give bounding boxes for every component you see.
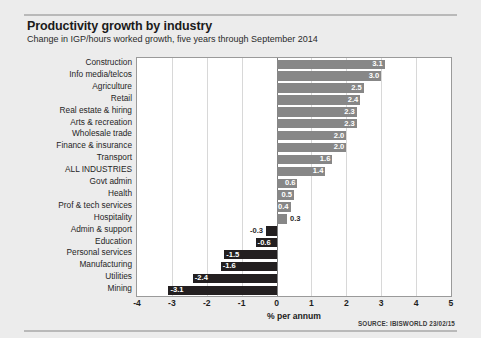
x-axis-ticks: -4-3-2-1012345 [136, 298, 452, 312]
bar-value-label: 2.3 [277, 119, 355, 129]
category-label: Govt admin [90, 176, 132, 188]
bar-series: 3.13.02.52.42.32.32.02.01.61.40.60.50.40… [137, 58, 451, 296]
bar [266, 226, 276, 235]
category-label: ALL INDUSTRIES [65, 164, 132, 176]
bar-row: -1.5 [137, 248, 451, 260]
bar-row: 2.3 [137, 118, 451, 130]
bar [277, 214, 287, 223]
category-label: Agriculture [92, 81, 132, 93]
bar-row: -3.1 [137, 284, 451, 296]
category-label: Utilities [105, 271, 132, 283]
category-label: Admin & support [71, 224, 132, 236]
x-tick-label: 5 [449, 298, 454, 308]
bar-row: 0.3 [137, 213, 451, 225]
bar-row: 1.4 [137, 165, 451, 177]
bar-value-label: 0.6 [277, 178, 296, 188]
bar-row: 2.0 [137, 129, 451, 141]
category-label: Arts & recreation [70, 117, 132, 129]
category-label: Retail [111, 93, 132, 105]
category-label: Finance & insurance [56, 140, 132, 152]
x-tick-label: -4 [133, 298, 141, 308]
bar-value-label: 2.3 [277, 107, 355, 117]
bar-value-label: -3.1 [170, 285, 183, 295]
x-tick-label: 4 [414, 298, 419, 308]
bar-value-label: -0.3 [137, 226, 263, 236]
bar-value-label: 2.0 [277, 142, 345, 152]
category-label: Mining [108, 283, 132, 295]
bar-row: 2.4 [137, 94, 451, 106]
bar-row: 3.0 [137, 70, 451, 82]
category-label: Transport [97, 152, 132, 164]
plot-area: 3.13.02.52.42.32.32.02.01.61.40.60.50.40… [136, 57, 452, 297]
category-label: Manufacturing [79, 259, 132, 271]
bar-value-label: 0.3 [290, 214, 301, 224]
x-tick-label: -3 [168, 298, 176, 308]
category-label: Hospitality [94, 212, 132, 224]
chart-subtitle: Change in IGP/hours worked growth, five … [27, 34, 318, 44]
bar-value-label: -2.4 [195, 273, 208, 283]
bar-value-label: 0.5 [277, 190, 292, 200]
bar-row: 2.3 [137, 106, 451, 118]
bar-row: 0.4 [137, 201, 451, 213]
x-tick-label: 2 [344, 298, 349, 308]
category-label: Health [108, 188, 132, 200]
bar-row: 1.6 [137, 153, 451, 165]
bar-row: -1.6 [137, 260, 451, 272]
bar-row: 0.6 [137, 177, 451, 189]
bar-row: 2.0 [137, 141, 451, 153]
bar-value-label: 0.4 [277, 202, 289, 212]
bar-value-label: 1.4 [277, 166, 324, 176]
bar-value-label: -1.5 [226, 250, 239, 260]
bar-value-label: 2.5 [277, 83, 362, 93]
bar [168, 286, 276, 295]
category-label: Info media/telcos [69, 69, 132, 81]
bar-value-label: 1.6 [277, 154, 331, 164]
bottom-divider [24, 330, 457, 332]
bar-row: 2.5 [137, 82, 451, 94]
bar-row: -0.3 [137, 225, 451, 237]
x-tick-label: 3 [379, 298, 384, 308]
bar-value-label: -0.6 [258, 238, 271, 248]
x-tick-label: -1 [238, 298, 246, 308]
category-label: Education [95, 236, 132, 248]
category-label: Prof & tech services [58, 200, 132, 212]
bar-row: 0.5 [137, 189, 451, 201]
bar-value-label: 2.0 [277, 131, 345, 141]
top-divider [24, 14, 457, 16]
category-axis: ConstructionInfo media/telcosAgriculture… [0, 57, 132, 297]
x-tick-label: 1 [309, 298, 314, 308]
bar-row: -2.4 [137, 272, 451, 284]
category-label: Construction [85, 57, 132, 69]
bar-row: -0.6 [137, 237, 451, 249]
category-label: Personal services [67, 247, 132, 259]
chart-card: Productivity growth by industry Change i… [0, 0, 481, 338]
x-tick-label: 0 [274, 298, 279, 308]
bar-value-label: -1.6 [223, 261, 236, 271]
source-note: SOURCE: IBISWORLD 23/02/15 [358, 320, 455, 327]
x-tick-label: -2 [203, 298, 211, 308]
category-label: Real estate & hiring [60, 105, 132, 117]
chart-title: Productivity growth by industry [27, 19, 212, 33]
bar-value-label: 3.0 [277, 71, 380, 81]
bar-row: 3.1 [137, 58, 451, 70]
bar-value-label: 2.4 [277, 95, 359, 105]
category-label: Wholesale trade [72, 128, 132, 140]
bar-value-label: 3.1 [277, 59, 383, 69]
